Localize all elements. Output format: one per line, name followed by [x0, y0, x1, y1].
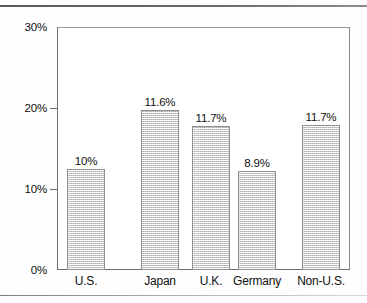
bar-value-label: 8.9%	[244, 157, 269, 169]
y-axis-tick-label: 10%	[3, 183, 47, 195]
x-axis-category-label: Germany	[233, 274, 281, 288]
x-axis-category-label: U.K.	[200, 274, 223, 288]
bar-group: 11.7%	[302, 27, 340, 270]
x-axis-category-label: Non-U.S.	[297, 274, 345, 288]
bar-chart: 0%10%20%30% 10%11.6%11.7%8.9%11.7% U.S.J…	[0, 12, 367, 292]
bar	[67, 169, 105, 270]
y-axis-tick-label: 0%	[3, 264, 47, 276]
bar-value-label: 11.7%	[306, 111, 337, 123]
x-axis-category-labels: U.S.JapanU.K.GermanyNon-U.S.	[57, 274, 350, 296]
x-axis-category-label: Japan	[144, 274, 176, 288]
bar-group: 8.9%	[238, 27, 276, 270]
x-axis-category-label: U.S.	[75, 274, 98, 288]
bar	[238, 171, 276, 270]
page-rule-top	[0, 5, 367, 7]
y-axis-tick-label: 30%	[3, 21, 47, 33]
bar-group: 11.7%	[192, 27, 230, 270]
bar-group: 11.6%	[141, 27, 179, 270]
bar	[192, 126, 230, 270]
bar-value-label: 11.7%	[196, 112, 227, 124]
bar-group: 10%	[67, 27, 105, 270]
page-rule-bottom	[0, 295, 367, 296]
scanned-page: 0%10%20%30% 10%11.6%11.7%8.9%11.7% U.S.J…	[0, 0, 367, 303]
bar	[302, 125, 340, 270]
bar-value-label: 11.6%	[145, 96, 176, 108]
bar-value-label: 10%	[75, 155, 97, 167]
bar	[141, 110, 179, 270]
y-axis-tick-label: 20%	[3, 102, 47, 114]
bars-layer: 10%11.6%11.7%8.9%11.7%	[57, 27, 350, 270]
